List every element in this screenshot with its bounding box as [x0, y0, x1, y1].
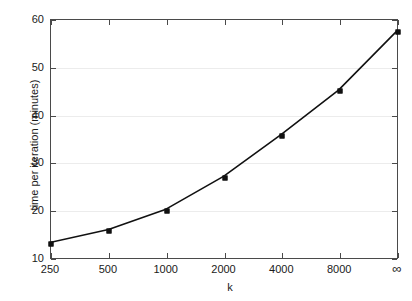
y-axis-tick	[51, 163, 56, 164]
y-axis-tick	[51, 211, 56, 212]
x-axis-tick-label: 250	[41, 263, 59, 275]
x-axis-tick-label: 8000	[327, 263, 351, 275]
x-axis-tick	[398, 20, 399, 25]
x-axis-tick	[398, 253, 399, 258]
x-axis-title-text: k	[227, 281, 233, 293]
y-axis-title: time per iteration (minutes)	[28, 25, 40, 265]
y-axis-tick-label: 60	[32, 13, 44, 25]
y-axis-tick	[392, 68, 397, 69]
plot-area	[50, 19, 398, 259]
y-axis-tick	[392, 211, 397, 212]
y-axis-tick	[51, 259, 56, 260]
chart-figure: 2505001000200040008000∞ 102030405060 k t…	[0, 0, 412, 301]
x-axis-tick-label: 2000	[211, 263, 235, 275]
y-axis-tick	[51, 20, 56, 21]
y-axis-tick	[51, 116, 56, 117]
y-axis-tick	[392, 116, 397, 117]
x-axis-tick-label: 4000	[269, 263, 293, 275]
y-axis-ticks	[51, 20, 397, 258]
y-axis-tick	[392, 20, 397, 21]
x-axis-tick-label: ∞	[392, 261, 401, 276]
y-axis-tick	[51, 68, 56, 69]
x-axis-title: k	[0, 281, 412, 293]
x-axis-tick-label: 1000	[153, 263, 177, 275]
x-axis-tick-label: 500	[99, 263, 117, 275]
y-axis-tick	[392, 259, 397, 260]
y-axis-tick	[392, 163, 397, 164]
